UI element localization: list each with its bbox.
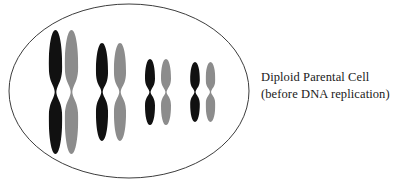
chromosome-4-black bbox=[190, 62, 200, 122]
chromosome-layer bbox=[49, 30, 216, 154]
caption-line-secondary: (before DNA replication) bbox=[261, 86, 411, 103]
cell-caption: Diploid Parental Cell (before DNA replic… bbox=[261, 69, 411, 102]
chromosome-4-gray bbox=[206, 62, 216, 122]
chromosome-pair-pair-3 bbox=[145, 59, 171, 125]
chromosome-pair-pair-2 bbox=[96, 43, 126, 141]
chromosome-3-black bbox=[145, 59, 155, 125]
chromosome-3-gray bbox=[161, 59, 171, 125]
caption-line-primary: Diploid Parental Cell bbox=[261, 69, 411, 86]
chromosome-1-black bbox=[49, 30, 62, 154]
chromosome-pair-pair-4 bbox=[190, 62, 215, 122]
chromosome-pair-pair-1 bbox=[49, 30, 78, 154]
chromosome-2-gray bbox=[114, 43, 126, 141]
chromosome-2-black bbox=[96, 43, 108, 141]
chromosome-1-gray bbox=[65, 30, 78, 154]
cell-membrane-ellipse bbox=[9, 4, 249, 178]
figure-canvas: Diploid Parental Cell (before DNA replic… bbox=[0, 0, 411, 186]
